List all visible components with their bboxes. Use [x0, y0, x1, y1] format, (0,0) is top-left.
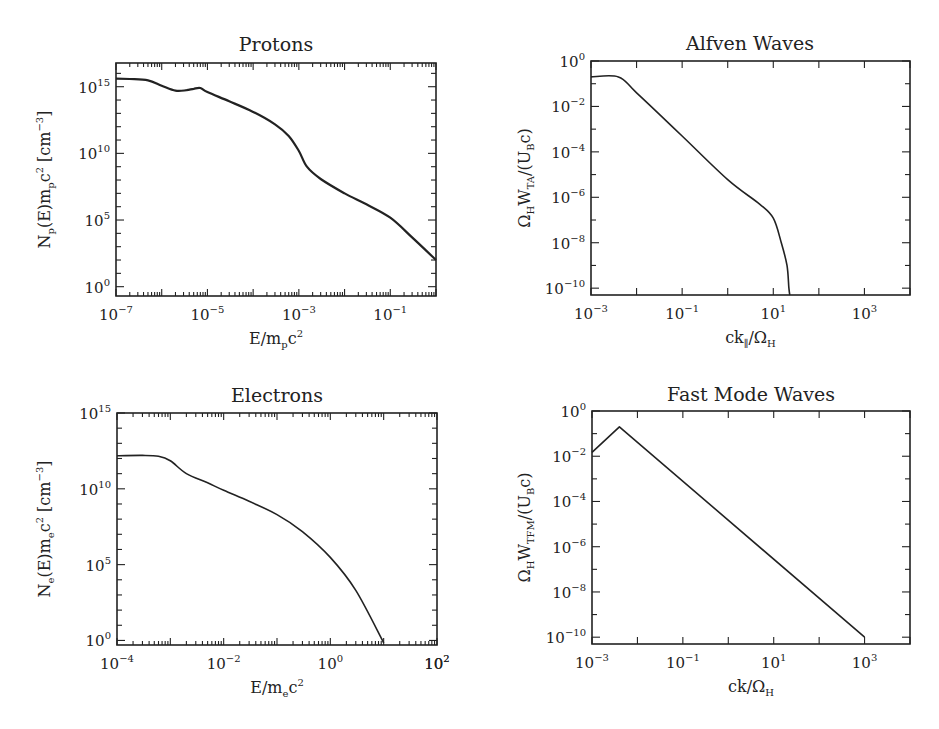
fast-mode-panel: Fast Mode Waves10−310−110110310010−210−4… — [515, 383, 910, 698]
tick-label: 10−6 — [551, 187, 585, 207]
tick-label: 10−2 — [552, 446, 586, 466]
tick-label: 10−2 — [551, 96, 585, 116]
fast-mode-x-axis-label: ck/ΩH — [728, 677, 774, 698]
fast-mode-title: Fast Mode Waves — [667, 383, 835, 405]
protons-y-axis-label: Np(E)mpc2 [cm−3] — [34, 111, 56, 249]
alfven-curve — [591, 76, 790, 295]
tick-label: 1015 — [79, 403, 111, 423]
electrons-curve — [117, 455, 384, 642]
tick-label: 10−4 — [551, 142, 585, 162]
tick-label: 10−6 — [552, 537, 586, 557]
electrons-panel: Electrons10−410−210010210210010510101015… — [34, 384, 450, 699]
figure: Protons10−710−510−310−110010510101015E/m… — [0, 0, 939, 729]
tick-label: 10−8 — [551, 233, 585, 253]
tick-label: 100 — [318, 653, 343, 673]
plot-frame — [117, 413, 437, 645]
plot-frame — [591, 61, 910, 295]
tick-label: 10−4 — [100, 653, 134, 673]
tick-label: 10−3 — [574, 303, 608, 323]
protons-panel: Protons10−710−510−310−110010510101015E/m… — [34, 33, 436, 350]
alfven-y-axis-label: ΩHWTA/(UBc) — [515, 128, 536, 228]
tick-label: 100 — [85, 277, 110, 297]
tick-label: 10−10 — [546, 627, 586, 647]
protons-curve — [116, 79, 436, 260]
tick-label: 10−1 — [665, 303, 699, 323]
tick-label: 101 — [761, 303, 786, 323]
alfven-panel: Alfven Waves10−310−110110310010−210−410−… — [515, 32, 910, 349]
plot-frame — [116, 63, 436, 296]
tick-label: 103 — [852, 303, 877, 323]
alfven-x-axis-label: ck∥/ΩH — [725, 328, 776, 349]
electrons-title: Electrons — [231, 384, 323, 406]
tick-label: 10−5 — [191, 304, 225, 324]
tick-label: 1015 — [78, 77, 110, 97]
tick-label: 103 — [852, 652, 877, 672]
tick-label: 102 — [424, 653, 449, 673]
fast-mode-curve — [592, 427, 865, 637]
tick-label: 100 — [560, 51, 585, 71]
electrons-y-axis-label: Ne(E)mec2 [cm−3] — [34, 461, 56, 598]
plot-frame — [592, 411, 910, 644]
tick-label: 100 — [86, 630, 111, 650]
tick-label: 10−7 — [99, 304, 133, 324]
tick-label: 101 — [761, 652, 786, 672]
tick-label: 10−8 — [552, 582, 586, 602]
protons-x-axis-label: E/mpc2 — [249, 328, 303, 350]
tick-label: 10−1 — [373, 304, 407, 324]
tick-label: 10−2 — [207, 653, 241, 673]
tick-label: 100 — [561, 401, 586, 421]
tick-label: 10−4 — [552, 491, 586, 511]
fast-mode-y-axis-label: ΩHWTFM/(UBc) — [515, 473, 536, 583]
tick-label: 10−3 — [282, 304, 316, 324]
protons-title: Protons — [239, 33, 313, 55]
tick-label: 10−1 — [666, 652, 700, 672]
alfven-title: Alfven Waves — [685, 32, 814, 54]
tick-label: 105 — [86, 555, 111, 575]
electrons-x-axis-label: E/mec2 — [250, 677, 304, 699]
tick-label: 1010 — [78, 143, 110, 163]
tick-label: 1010 — [79, 479, 111, 499]
tick-label: 10−10 — [545, 278, 585, 298]
tick-label: 105 — [85, 210, 110, 230]
tick-label: 10−3 — [575, 652, 609, 672]
